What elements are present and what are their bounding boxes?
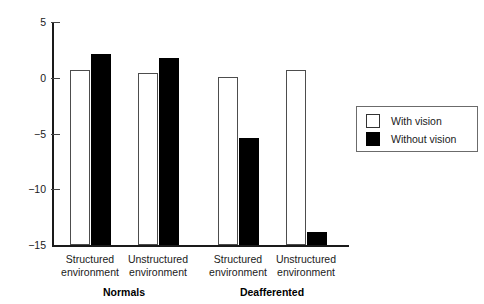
- category-label-1: Unstructuredenvironment: [128, 253, 188, 278]
- category-label-line: Unstructured: [128, 253, 188, 266]
- category-label-line: environment: [128, 266, 188, 279]
- y-tick-label: 5: [40, 17, 46, 28]
- category-label-2: Structuredenvironment: [209, 253, 267, 278]
- y-tick-label: 0: [40, 73, 46, 84]
- bar-with-vision-0: [70, 70, 90, 245]
- x-axis-line: [52, 245, 349, 247]
- legend-label: With vision: [391, 116, 442, 127]
- bar-with-vision-1: [138, 73, 158, 245]
- bars-layer: [52, 22, 349, 245]
- plot-area: 5 0 −5 −10 −15: [52, 22, 349, 245]
- category-label-line: environment: [276, 266, 336, 279]
- bar-without-vision-3: [307, 232, 327, 245]
- legend-entry-with-vision: With vision: [366, 114, 442, 128]
- category-label-0: Structuredenvironment: [61, 253, 119, 278]
- legend-swatch-black-icon: [366, 132, 380, 146]
- bar-with-vision-2: [218, 77, 238, 245]
- group-label-1: Deafferented: [240, 286, 304, 298]
- bar-without-vision-1: [159, 58, 179, 245]
- y-tick-label: −15: [28, 240, 46, 251]
- y-tick-label: −10: [28, 184, 46, 195]
- legend-box: With vision Without vision: [356, 106, 478, 152]
- legend-entry-without-vision: Without vision: [366, 132, 456, 146]
- bar-chart-figure: 5 0 −5 −10 −15 StructuredenvironmentUnst…: [0, 0, 484, 304]
- category-label-line: Structured: [209, 253, 267, 266]
- category-label-line: Unstructured: [276, 253, 336, 266]
- bar-without-vision-2: [239, 138, 259, 245]
- category-label-line: Structured: [61, 253, 119, 266]
- category-label-line: environment: [209, 266, 267, 279]
- bar-without-vision-0: [91, 54, 111, 245]
- bar-with-vision-3: [286, 70, 306, 245]
- legend-swatch-white-icon: [366, 114, 380, 128]
- legend-label: Without vision: [391, 134, 456, 145]
- category-label-3: Unstructuredenvironment: [276, 253, 336, 278]
- group-label-0: Normals: [103, 286, 145, 298]
- category-label-line: environment: [61, 266, 119, 279]
- y-tick-label: −5: [34, 128, 46, 139]
